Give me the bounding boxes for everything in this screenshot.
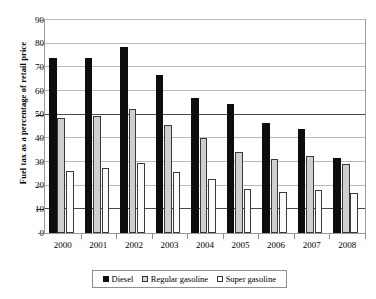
x-tick-mark-2	[152, 234, 153, 239]
bar-regular-2005	[235, 152, 243, 233]
bar-group-2004	[187, 20, 223, 233]
y-tick-mark-50	[36, 115, 44, 116]
bar-super-2008	[350, 193, 358, 233]
x-tick-label-2002: 2002	[114, 240, 154, 250]
bar-diesel-2006	[262, 123, 270, 233]
bar-regular-2007	[306, 156, 314, 233]
legend-label-super-gasoline: Super gasoline	[226, 274, 276, 284]
x-tick-mark-6	[294, 234, 295, 239]
bar-super-2005	[244, 189, 252, 233]
x-tick-label-2008: 2008	[327, 240, 367, 250]
chart-legend: Diesel Regular gasoline Super gasoline	[92, 270, 287, 288]
bar-diesel-2000	[49, 58, 57, 233]
legend-label-regular-gasoline: Regular gasoline	[151, 274, 208, 284]
x-tick-mark-0	[81, 234, 82, 239]
regular-gasoline-swatch-icon	[142, 276, 148, 282]
y-tick-mark-10	[36, 209, 44, 210]
bar-regular-2008	[342, 164, 350, 233]
x-tick-mark-1	[116, 234, 117, 239]
bar-regular-2002	[129, 109, 137, 233]
x-tick-mark-7	[329, 234, 330, 239]
legend-item-regular-gasoline: Regular gasoline	[142, 274, 208, 284]
bar-regular-2004	[200, 138, 208, 233]
bar-super-2000	[66, 171, 74, 233]
bar-diesel-2004	[191, 98, 199, 233]
bar-regular-2000	[57, 118, 65, 233]
bar-regular-2001	[93, 116, 101, 233]
bar-regular-2006	[271, 159, 279, 233]
bar-super-2001	[102, 168, 110, 233]
bar-super-2002	[137, 163, 145, 233]
x-tick-label-2006: 2006	[256, 240, 296, 250]
bar-group-2000	[45, 20, 81, 233]
bar-diesel-2003	[156, 75, 164, 233]
x-tick-mark-8	[365, 234, 366, 239]
chart-container: Fuel tax as a percentage of retail price…	[0, 0, 376, 299]
bar-diesel-2007	[298, 129, 306, 233]
bar-group-2002	[116, 20, 152, 233]
bar-regular-2003	[164, 125, 172, 233]
x-tick-mark-3	[187, 234, 188, 239]
bar-diesel-2002	[120, 47, 128, 233]
legend-label-diesel: Diesel	[112, 274, 134, 284]
bar-group-2008	[329, 20, 365, 233]
x-tick-label-2005: 2005	[221, 240, 261, 250]
x-tick-mark-5	[258, 234, 259, 239]
x-tick-label-2007: 2007	[292, 240, 332, 250]
bar-series-layer	[45, 20, 365, 233]
x-tick-label-2004: 2004	[185, 240, 225, 250]
diesel-swatch-icon	[103, 276, 109, 282]
super-gasoline-swatch-icon	[217, 276, 223, 282]
legend-item-super-gasoline: Super gasoline	[217, 274, 276, 284]
x-tick-label-2001: 2001	[78, 240, 118, 250]
bar-group-2006	[258, 20, 294, 233]
bar-group-2007	[294, 20, 330, 233]
bar-super-2006	[279, 192, 287, 233]
bar-super-2007	[315, 190, 323, 233]
bar-group-2003	[152, 20, 188, 233]
x-tick-label-2000: 2000	[43, 240, 83, 250]
bar-group-2005	[223, 20, 259, 233]
bar-diesel-2008	[333, 158, 341, 233]
bar-diesel-2005	[227, 104, 235, 233]
bar-super-2004	[208, 179, 216, 233]
bar-diesel-2001	[85, 58, 93, 233]
bar-super-2003	[173, 172, 181, 233]
legend-item-diesel: Diesel	[103, 274, 133, 284]
x-tick-label-2003: 2003	[149, 240, 189, 250]
x-tick-mark-4	[223, 234, 224, 239]
bar-group-2001	[81, 20, 117, 233]
